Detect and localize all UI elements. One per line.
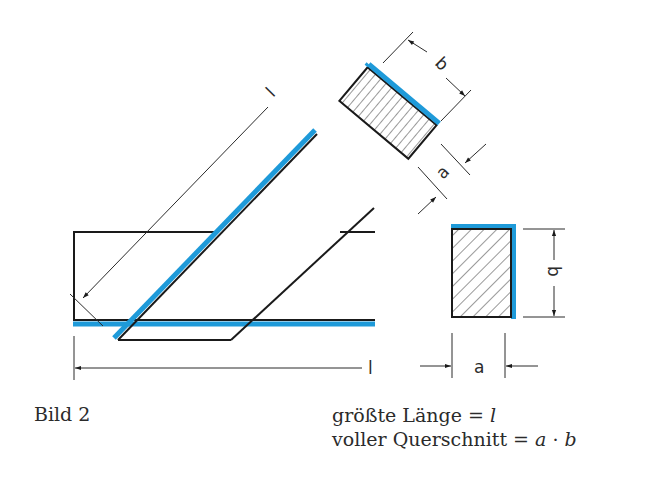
horizontal-beam <box>73 232 375 324</box>
diagonal-length-label: l <box>262 83 279 100</box>
diagonal-member <box>114 130 374 340</box>
rotated-section-b-label: b <box>431 53 453 75</box>
rotated-section-a-label: a <box>432 161 454 183</box>
multiply-dot: · <box>546 428 564 450</box>
section-b-label: b <box>544 266 564 277</box>
variable-a: a <box>535 428 546 450</box>
cross-section-text: voller Querschnitt = <box>332 428 535 450</box>
formula-block: größte Länge = l voller Querschnitt = a … <box>332 403 577 451</box>
max-length-variable: l <box>490 404 496 426</box>
section-dimension-b: b <box>523 229 565 317</box>
section-dimension-a: a <box>420 333 538 378</box>
variable-b: b <box>565 428 577 450</box>
horizontal-length-label: l <box>368 358 373 378</box>
horizontal-length-dimension: l <box>74 336 373 380</box>
cross-section-formula: voller Querschnitt = a · b <box>332 427 577 451</box>
figure-label: Bild 2 <box>34 403 90 425</box>
max-length-text: größte Länge = <box>332 404 490 426</box>
rotated-cross-section <box>338 64 439 160</box>
upright-cross-section <box>451 224 516 319</box>
max-length-formula: größte Länge = l <box>332 403 577 427</box>
section-a-label: a <box>474 357 484 377</box>
rotated-section-dimension-a: a <box>418 144 486 214</box>
